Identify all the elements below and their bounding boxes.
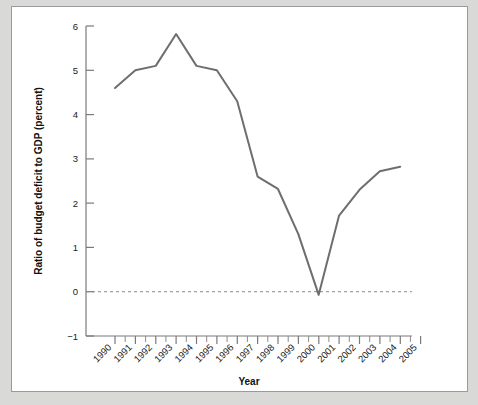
y-tick-label: 2 — [73, 198, 78, 209]
x-tick-label: 2003 — [356, 342, 379, 365]
x-tick-label: 1996 — [213, 342, 236, 365]
x-tick-label: 1994 — [172, 342, 195, 365]
x-tick-label: 1993 — [152, 342, 175, 365]
figure-root: 6 5 4 3 2 1 0 −1 Ratio of budget deficit… — [0, 0, 478, 405]
x-tick-label: 2002 — [335, 342, 358, 365]
y-tick-marks — [86, 26, 94, 336]
y-axis-title: Ratio of budget deficit to GDP (percent) — [33, 87, 44, 275]
y-tick-label: 4 — [73, 109, 78, 120]
x-axis-title: Year — [238, 376, 259, 387]
x-tick-label: 1992 — [131, 342, 154, 365]
deficit-ratio-line — [115, 34, 400, 295]
x-tick-label: 1999 — [274, 342, 297, 365]
chart-panel: 6 5 4 3 2 1 0 −1 Ratio of budget deficit… — [11, 6, 468, 392]
x-tick-label: 1991 — [111, 342, 134, 365]
x-tick-label: 1997 — [233, 342, 256, 365]
y-tick-labels: 6 5 4 3 2 1 0 −1 — [67, 21, 78, 342]
x-tick-label: 2005 — [396, 342, 419, 365]
y-tick-label: 6 — [73, 21, 78, 32]
y-tick-label: 3 — [73, 153, 78, 164]
y-tick-label: 5 — [73, 65, 78, 76]
x-tick-label: 2001 — [315, 342, 338, 365]
y-tick-label: 0 — [73, 286, 78, 297]
y-tick-label: 1 — [73, 242, 78, 253]
x-tick-label: 1990 — [91, 342, 114, 365]
x-tick-label: 2000 — [294, 342, 317, 365]
x-tick-label: 2004 — [376, 342, 399, 365]
x-tick-label: 1998 — [254, 342, 277, 365]
budget-deficit-line-chart: 6 5 4 3 2 1 0 −1 Ratio of budget deficit… — [12, 7, 467, 391]
x-tick-label: 1995 — [193, 342, 216, 365]
y-tick-label: −1 — [67, 331, 78, 342]
x-tick-labels: 1990 1991 1992 1993 1994 1995 1996 1997 … — [91, 342, 419, 365]
